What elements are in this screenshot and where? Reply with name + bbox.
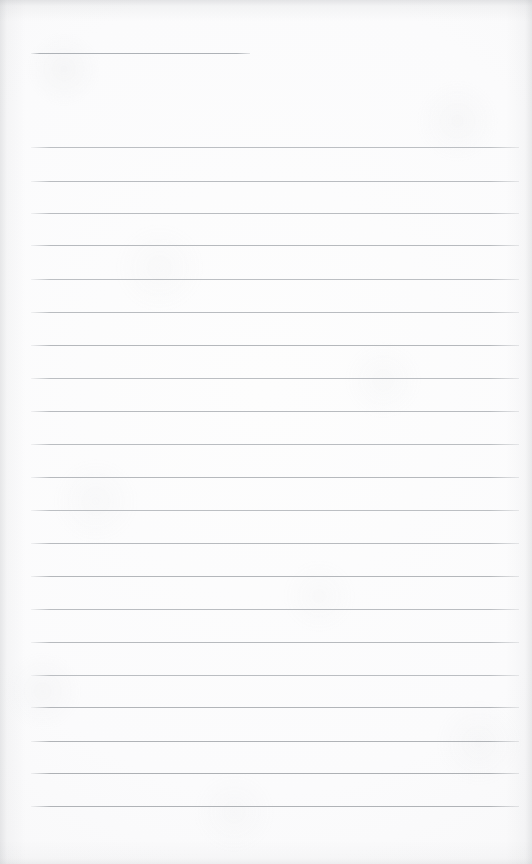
- ruled-line-20: [31, 773, 519, 774]
- ruled-line-5: [31, 279, 519, 280]
- ruled-line-11: [31, 477, 519, 478]
- ruled-line-14: [31, 576, 519, 577]
- ruled-lines-layer: [0, 0, 532, 864]
- ruled-line-10: [31, 444, 519, 445]
- ruled-line-15: [31, 609, 519, 610]
- ruled-line-13: [31, 543, 519, 544]
- ruled-line-17: [31, 675, 519, 676]
- header-rule: [31, 53, 250, 54]
- ruled-line-18: [31, 707, 519, 708]
- ruled-line-9: [31, 411, 519, 412]
- ruled-line-7: [31, 345, 519, 346]
- ruled-line-3: [31, 213, 519, 214]
- ruled-line-6: [31, 312, 519, 313]
- ruled-line-2: [31, 181, 519, 182]
- ruled-line-1: [31, 147, 519, 148]
- ruled-line-19: [31, 741, 519, 742]
- scanned-page: [0, 0, 532, 864]
- ruled-line-16: [31, 642, 519, 643]
- ruled-line-12: [31, 510, 519, 511]
- ruled-line-4: [31, 245, 519, 246]
- ruled-line-8: [31, 378, 519, 379]
- ruled-line-21: [31, 806, 519, 807]
